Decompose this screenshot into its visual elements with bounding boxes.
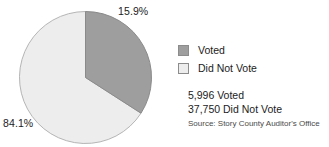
legend-swatch-did-not-vote	[178, 63, 189, 74]
stat-did-not-vote-count: 37,750 Did Not Vote	[188, 102, 328, 116]
source-note: Source: Story County Auditor's Office	[188, 119, 320, 128]
data-label-did-not-vote-percent: 84.1%	[3, 117, 33, 129]
legend-swatch-voted	[178, 45, 189, 56]
legend-item-voted: Voted	[178, 42, 328, 58]
data-label-voted-percent: 15.9%	[118, 5, 148, 17]
pie-chart-figure: 15.9% 84.1% Voted Did Not Vote 5,996 Vot…	[0, 0, 329, 147]
legend-item-did-not-vote: Did Not Vote	[178, 60, 328, 76]
stats-block: 5,996 Voted 37,750 Did Not Vote	[188, 88, 328, 116]
legend-label-did-not-vote: Did Not Vote	[198, 62, 257, 74]
stat-voted-count: 5,996 Voted	[188, 88, 328, 102]
chart-legend: Voted Did Not Vote	[178, 42, 328, 78]
pie-chart-graphic	[14, 8, 157, 147]
legend-label-voted: Voted	[198, 44, 225, 56]
